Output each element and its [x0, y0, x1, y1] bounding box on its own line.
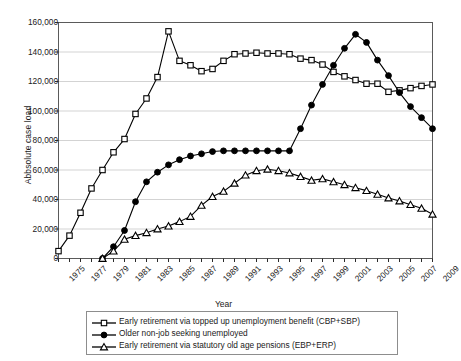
- x-tick-label: 1987: [199, 264, 218, 283]
- x-tick-label: 2009: [441, 264, 460, 283]
- legend-label: Early retirement via statutory old age p…: [117, 339, 336, 351]
- legend-item: Early retirement via topped up unemploym…: [91, 315, 393, 327]
- legend-item: Early retirement via statutory old age p…: [91, 339, 393, 351]
- legend-label: Older non-job seeking unemployed: [117, 327, 248, 339]
- x-tick-label: 1985: [177, 264, 196, 283]
- x-tick-label: 1977: [89, 264, 108, 283]
- legend-label: Early retirement via topped up unemploym…: [117, 315, 360, 327]
- x-tick-label: 1989: [221, 264, 240, 283]
- legend-marker-open-triangle-icon: [91, 339, 117, 351]
- x-tick-label: 1983: [155, 264, 174, 283]
- x-tick-label: 1975: [67, 264, 86, 283]
- x-tick-label: 1993: [265, 264, 284, 283]
- x-tick-label: 2007: [419, 264, 438, 283]
- x-tick-label: 2001: [353, 264, 372, 283]
- legend-item: Older non-job seeking unemployed: [91, 327, 393, 339]
- x-tick-label: 2005: [397, 264, 416, 283]
- x-tick-label: 1979: [111, 264, 130, 283]
- x-tick-label: 1997: [309, 264, 328, 283]
- chart-legend: Early retirement via topped up unemploym…: [86, 311, 398, 355]
- legend-marker-open-square-icon: [91, 315, 117, 327]
- x-tick-label: 1991: [243, 264, 262, 283]
- x-tick-label: 1999: [331, 264, 350, 283]
- x-tick-label: 1995: [287, 264, 306, 283]
- x-axis-title: Year: [0, 299, 447, 309]
- x-tick-label: 1981: [133, 264, 152, 283]
- legend-marker-filled-circle-icon: [91, 327, 117, 339]
- x-tick-label: 2003: [375, 264, 394, 283]
